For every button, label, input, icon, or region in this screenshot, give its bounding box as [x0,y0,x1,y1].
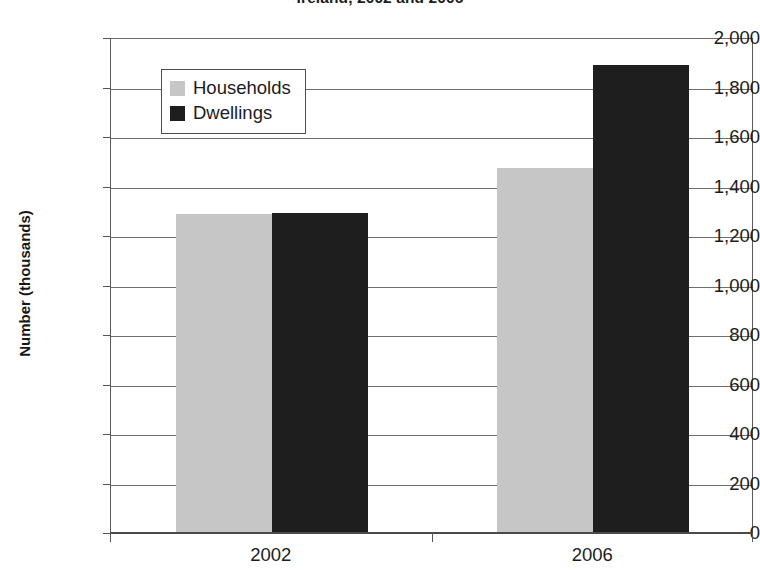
legend-item-households[interactable]: Households [170,76,291,101]
y-tick-mark [103,236,111,237]
x-tick-label-2002: 2002 [250,544,291,566]
y-tick-label: 800 [668,324,760,346]
legend-swatch-households-icon [170,81,185,96]
y-tick-mark [103,335,111,336]
y-tick-mark [103,38,111,39]
y-tick-mark [103,88,111,89]
y-tick-mark [103,187,111,188]
bar-chart: Ireland, 2002 and 2006 Number (thousands… [0,0,760,570]
y-tick-mark [103,484,111,485]
x-tick-mark [752,533,753,542]
y-tick-label: 1,200 [668,225,760,247]
bar-households-2006[interactable] [497,168,593,532]
bar-dwellings-2002[interactable] [272,213,368,532]
y-axis-title: Number (thousands) [16,124,33,444]
y-tick-mark [103,434,111,435]
x-tick-mark [432,533,433,542]
y-tick-label: 400 [668,423,760,445]
y-tick-label: 200 [668,473,760,495]
legend-swatch-dwellings-icon [170,106,185,121]
legend-label-households: Households [193,79,291,98]
y-tick-mark [103,385,111,386]
x-tick-label-2006: 2006 [572,544,613,566]
legend-item-dwellings[interactable]: Dwellings [170,101,291,126]
x-tick-mark [110,533,111,542]
chart-legend: Households Dwellings [161,69,306,134]
legend-label-dwellings: Dwellings [193,104,272,123]
y-tick-label: 1,600 [668,126,760,148]
y-tick-label: 1,400 [668,176,760,198]
y-tick-label: 1,000 [668,275,760,297]
bar-households-2002[interactable] [176,214,272,532]
y-tick-mark [103,286,111,287]
y-tick-mark [103,137,111,138]
y-tick-label: 1,800 [668,77,760,99]
y-tick-label: 2,000 [668,27,760,49]
y-tick-label: 600 [668,374,760,396]
chart-title: Ireland, 2002 and 2006 [0,0,760,7]
